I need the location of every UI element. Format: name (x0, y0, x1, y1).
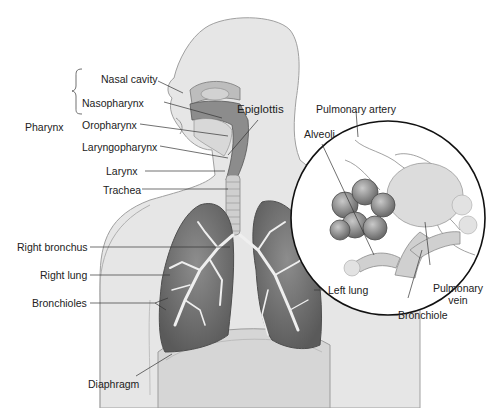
label-pulmonary-artery: Pulmonary artery (316, 103, 396, 115)
label-diaphragm: Diaphragm (88, 378, 139, 390)
label-oropharynx: Oropharynx (82, 119, 137, 131)
label-pulmonary-vein-1: Pulmonary (428, 282, 488, 294)
label-pulmonary-vein-2: vein (428, 294, 488, 306)
anatomy-illustration (0, 0, 498, 408)
respiratory-diagram: Nasal cavity Pharynx Nasopharynx Orophar… (0, 0, 498, 408)
label-epiglottis: Epiglottis (237, 103, 284, 115)
label-nasal-cavity: Nasal cavity (101, 73, 158, 85)
label-trachea: Trachea (103, 184, 141, 196)
label-pharynx: Pharynx (25, 121, 64, 133)
label-nasopharynx: Nasopharynx (82, 97, 144, 109)
label-larynx: Larynx (106, 165, 138, 177)
label-alveoli: Alveoli (304, 128, 335, 140)
label-bronchiole: Bronchiole (398, 309, 448, 321)
label-bronchioles: Bronchioles (32, 297, 87, 309)
label-left-lung: Left lung (328, 284, 368, 296)
label-right-bronchus: Right bronchus (17, 241, 88, 253)
label-right-lung: Right lung (40, 269, 87, 281)
label-laryngopharynx: Laryngopharynx (82, 141, 157, 153)
